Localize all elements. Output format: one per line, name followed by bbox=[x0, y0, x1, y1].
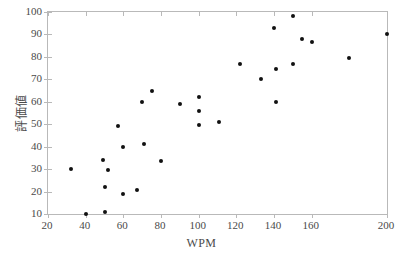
y-axis-tick-inner bbox=[48, 214, 52, 215]
data-point bbox=[197, 95, 201, 99]
x-axis-tick-top bbox=[312, 12, 313, 16]
x-axis-tick bbox=[312, 214, 313, 218]
x-axis-tick-top bbox=[123, 12, 124, 16]
data-point bbox=[121, 192, 125, 196]
y-axis-tick-inner bbox=[48, 192, 52, 193]
data-point bbox=[291, 62, 295, 66]
x-axis-tick-label: 140 bbox=[265, 219, 282, 231]
y-axis-tick-inner bbox=[48, 34, 52, 35]
y-axis-tick-label: 60 bbox=[18, 95, 42, 107]
x-axis-title: WPM bbox=[0, 236, 403, 251]
x-axis-tick-label: 200 bbox=[378, 219, 395, 231]
x-axis-tick bbox=[199, 214, 200, 218]
data-point bbox=[259, 77, 263, 81]
data-point bbox=[274, 67, 278, 71]
plot-area bbox=[47, 11, 388, 215]
data-point bbox=[103, 185, 107, 189]
data-point bbox=[106, 168, 110, 172]
data-point bbox=[159, 159, 163, 163]
y-axis-tick-label: 20 bbox=[18, 185, 42, 197]
x-axis-tick-top bbox=[274, 12, 275, 16]
y-axis-tick-label: 30 bbox=[18, 162, 42, 174]
data-point bbox=[103, 210, 107, 214]
y-axis-tick-label: 70 bbox=[18, 72, 42, 84]
x-axis-tick-label: 20 bbox=[42, 219, 53, 231]
x-axis-tick-label: 40 bbox=[79, 219, 90, 231]
y-axis-tick-inner bbox=[48, 57, 52, 58]
scatter-plot-figure: WPM 評価値 20406080100120140160200102030405… bbox=[0, 0, 403, 257]
y-axis-tick-label: 100 bbox=[18, 5, 42, 17]
data-point bbox=[84, 212, 88, 216]
y-axis-tick-label: 90 bbox=[18, 27, 42, 39]
x-axis-tick-top bbox=[387, 12, 388, 16]
x-axis-tick-label: 60 bbox=[117, 219, 128, 231]
data-point bbox=[217, 120, 221, 124]
data-point bbox=[101, 158, 105, 162]
data-point bbox=[135, 188, 139, 192]
x-axis-tick-label: 100 bbox=[189, 219, 206, 231]
data-point bbox=[197, 123, 201, 127]
data-point bbox=[140, 100, 144, 104]
data-point bbox=[385, 32, 389, 36]
x-axis-tick-top bbox=[86, 12, 87, 16]
x-axis-tick bbox=[274, 214, 275, 218]
y-axis-tick-inner bbox=[48, 147, 52, 148]
y-axis-tick-inner bbox=[48, 102, 52, 103]
data-point bbox=[69, 167, 73, 171]
y-axis-tick-label: 80 bbox=[18, 50, 42, 62]
y-axis-tick-label: 50 bbox=[18, 117, 42, 129]
y-axis-tick-label: 10 bbox=[18, 207, 42, 219]
data-point bbox=[347, 56, 351, 60]
data-point bbox=[238, 62, 242, 66]
y-axis-tick-inner bbox=[48, 79, 52, 80]
x-axis-tick-top bbox=[236, 12, 237, 16]
x-axis-tick bbox=[387, 214, 388, 218]
y-axis-tick-inner bbox=[48, 124, 52, 125]
x-axis-tick-label: 160 bbox=[302, 219, 319, 231]
data-point bbox=[310, 40, 314, 44]
data-point bbox=[116, 124, 120, 128]
x-axis-tick bbox=[161, 214, 162, 218]
x-axis-tick-label: 80 bbox=[155, 219, 166, 231]
data-point bbox=[197, 109, 201, 113]
x-axis-tick-top bbox=[161, 12, 162, 16]
y-axis-tick-inner bbox=[48, 12, 52, 13]
x-axis-tick bbox=[123, 214, 124, 218]
data-point bbox=[274, 100, 278, 104]
data-point bbox=[142, 142, 146, 146]
data-point bbox=[150, 89, 154, 93]
data-point bbox=[272, 26, 276, 30]
x-axis-tick bbox=[236, 214, 237, 218]
data-point bbox=[300, 37, 304, 41]
y-axis-tick-inner bbox=[48, 169, 52, 170]
data-point bbox=[291, 14, 295, 18]
x-axis-tick-label: 120 bbox=[227, 219, 244, 231]
x-axis-tick-top bbox=[199, 12, 200, 16]
data-point bbox=[178, 102, 182, 106]
data-point bbox=[121, 145, 125, 149]
y-axis-tick-label: 40 bbox=[18, 140, 42, 152]
